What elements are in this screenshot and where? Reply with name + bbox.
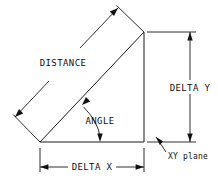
xy-plane-label: XY plane (168, 152, 208, 161)
delta-y-label: DELTA Y (170, 83, 211, 93)
angle-label: ANGLE (85, 116, 114, 126)
dimension-diagram: DISTANCE ANGLE DELTA Y (0, 0, 218, 188)
diagram-canvas: DISTANCE ANGLE DELTA Y (0, 0, 218, 188)
xy-plane-annotation: XY plane (156, 137, 208, 161)
delta-x-arrowhead-right (136, 164, 144, 169)
delta-x-label: DELTA X (72, 162, 113, 172)
angle-annotation: ANGLE (82, 97, 115, 142)
delta-y-arrowhead-top (187, 32, 192, 40)
distance-dimension: DISTANCE (13, 5, 144, 142)
distance-label: DISTANCE (40, 58, 87, 68)
delta-y-dimension: DELTA Y (147, 32, 211, 142)
xy-plane-leader-arrowhead (156, 137, 163, 145)
delta-y-arrowhead-bottom (187, 134, 192, 142)
distance-extension-line-start (13, 115, 40, 142)
delta-x-dimension: DELTA X (40, 148, 144, 172)
delta-x-arrowhead-left (40, 164, 48, 169)
angle-arrowhead-base (97, 134, 102, 142)
distance-extension-line-end (116, 5, 144, 32)
angle-arrowhead-hypotenuse (82, 97, 90, 105)
